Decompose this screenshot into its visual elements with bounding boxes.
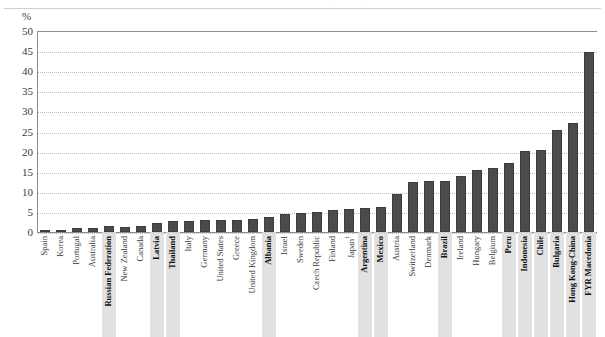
bar[interactable] xyxy=(168,221,178,232)
bar[interactable] xyxy=(280,214,290,232)
bar-slot xyxy=(408,31,418,232)
bar[interactable] xyxy=(40,230,50,232)
bar-slot xyxy=(424,31,434,232)
bar-slot xyxy=(472,31,482,232)
bar[interactable] xyxy=(296,213,306,232)
bar-slot xyxy=(104,31,114,232)
bar-slot xyxy=(440,31,450,232)
bar[interactable] xyxy=(328,210,338,232)
y-tick-label-45: 45 xyxy=(3,45,33,57)
x-tick-label: Albania xyxy=(264,236,273,265)
bar[interactable] xyxy=(56,230,66,232)
bar[interactable] xyxy=(504,163,514,232)
title-divider-rule xyxy=(4,8,601,9)
bar[interactable] xyxy=(184,221,194,232)
bar[interactable] xyxy=(392,194,402,232)
bar-slot xyxy=(200,31,210,232)
bar[interactable] xyxy=(472,170,482,232)
bar-series xyxy=(37,31,597,232)
bar[interactable] xyxy=(376,207,386,232)
bar-slot xyxy=(376,31,386,232)
bar-slot xyxy=(456,31,466,232)
bar[interactable] xyxy=(152,223,162,232)
x-tick-label: Greece xyxy=(232,236,241,260)
bar[interactable] xyxy=(584,52,594,232)
bar-slot xyxy=(584,31,594,232)
bar-slot xyxy=(520,31,530,232)
bar-slot xyxy=(184,31,194,232)
bar-slot xyxy=(280,31,290,232)
bar-slot xyxy=(72,31,82,232)
x-tick-label: Mexico xyxy=(376,236,385,262)
x-tick-label: Russian Federation xyxy=(104,236,113,307)
x-tick-label: Hungary xyxy=(472,236,481,266)
bar-slot xyxy=(152,31,162,232)
bar[interactable] xyxy=(248,219,258,232)
y-tick-label-20: 20 xyxy=(3,146,33,158)
bar[interactable] xyxy=(216,220,226,232)
bar[interactable] xyxy=(72,228,82,232)
bar-slot xyxy=(504,31,514,232)
bar[interactable] xyxy=(88,228,98,232)
x-tick-label: Indonesia xyxy=(520,236,529,271)
y-tick-label-10: 10 xyxy=(3,186,33,198)
x-tick-label: Finland xyxy=(328,236,337,262)
bar-slot xyxy=(120,31,130,232)
x-tick-label: Israel xyxy=(280,236,289,255)
bar[interactable] xyxy=(408,182,418,232)
x-tick-label: Spain xyxy=(40,236,49,255)
x-tick-label: Denmark xyxy=(424,236,433,268)
x-tick-label: Sweden xyxy=(296,236,305,263)
bar[interactable] xyxy=(344,209,354,232)
bar-slot xyxy=(168,31,178,232)
bar[interactable] xyxy=(136,226,146,232)
bar-slot xyxy=(488,31,498,232)
x-tick-label: Japan1 xyxy=(344,236,355,258)
bar[interactable] xyxy=(232,220,242,232)
x-tick-label: Hong Kong-China xyxy=(568,236,577,303)
bar[interactable] xyxy=(440,181,450,232)
bar-slot xyxy=(360,31,370,232)
bar[interactable] xyxy=(520,151,530,232)
bar-slot xyxy=(536,31,546,232)
x-tick-label: Thailand xyxy=(168,236,177,269)
y-tick-label-35: 35 xyxy=(3,85,33,97)
x-tick-label: Switzerland xyxy=(408,236,417,277)
bar[interactable] xyxy=(200,220,210,232)
x-tick-label: Australia xyxy=(88,236,97,267)
bar-slot xyxy=(40,31,50,232)
title-clipped-text: ·· xyxy=(330,0,480,7)
bar[interactable] xyxy=(536,150,546,232)
bar-slot xyxy=(392,31,402,232)
bar-slot xyxy=(552,31,562,232)
bar-slot xyxy=(264,31,274,232)
x-tick-label: Korea xyxy=(56,236,65,257)
bar[interactable] xyxy=(424,181,434,232)
x-tick-label: Austria xyxy=(392,236,401,261)
bar[interactable] xyxy=(312,212,322,233)
x-tick-label: Czech Republic xyxy=(312,236,321,290)
bar[interactable] xyxy=(488,168,498,232)
x-tick-label: Canada xyxy=(136,236,145,262)
x-tick-label: FYR Macedonia xyxy=(584,236,593,296)
bar[interactable] xyxy=(104,226,114,232)
x-tick-label: United Kingdom xyxy=(248,236,257,293)
x-tick-label: Ireland xyxy=(456,236,465,260)
y-axis: 05101520253035404550 xyxy=(0,0,33,264)
bar[interactable] xyxy=(120,227,130,232)
bar-slot xyxy=(296,31,306,232)
bar[interactable] xyxy=(568,123,578,232)
bar[interactable] xyxy=(360,208,370,232)
bar-slot xyxy=(328,31,338,232)
x-tick-label: Italy xyxy=(184,236,193,252)
x-tick-label: Brazil xyxy=(440,236,449,258)
bar[interactable] xyxy=(456,176,466,232)
y-tick-label-50: 50 xyxy=(3,25,33,37)
bar[interactable] xyxy=(552,130,562,232)
x-tick-label: Germany xyxy=(200,236,209,268)
bar[interactable] xyxy=(264,217,274,232)
bar-slot xyxy=(344,31,354,232)
bar-slot xyxy=(216,31,226,232)
y-tick-label-25: 25 xyxy=(3,126,33,138)
x-tick-label: Peru xyxy=(504,236,513,253)
